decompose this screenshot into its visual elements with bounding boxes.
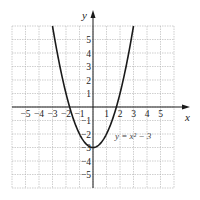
- x-axis-label: x: [184, 111, 190, 123]
- y-tick-label: 3: [86, 62, 91, 72]
- equation-annotation: y = x² − 3: [114, 131, 152, 141]
- y-tick-label: −1: [81, 116, 91, 126]
- x-tick-label: 5: [158, 109, 163, 119]
- x-tick-label: 4: [145, 109, 150, 119]
- x-tick-label: 3: [131, 109, 136, 119]
- x-tick-label: 1: [104, 109, 109, 119]
- y-tick-label: 5: [86, 35, 91, 45]
- y-axis-label: y: [81, 9, 87, 21]
- y-tick-label: 4: [86, 49, 91, 59]
- y-tick-label: 1: [86, 89, 91, 99]
- y-tick-label: 2: [86, 76, 91, 86]
- x-tick-label: 2: [118, 109, 123, 119]
- x-tick-label: −5: [20, 109, 30, 119]
- y-tick-label: −4: [81, 157, 91, 167]
- y-axis-arrow-icon: [91, 10, 96, 18]
- x-tick-label: −4: [34, 109, 44, 119]
- x-tick-label: −3: [47, 109, 57, 119]
- x-tick-label: −2: [61, 109, 71, 119]
- y-tick-label: −5: [81, 170, 91, 180]
- parabola-chart: −5−4−3−2−11234554321−1−2−3−4−5 x y y = x…: [0, 0, 200, 200]
- x-axis-arrow-icon: [182, 105, 190, 110]
